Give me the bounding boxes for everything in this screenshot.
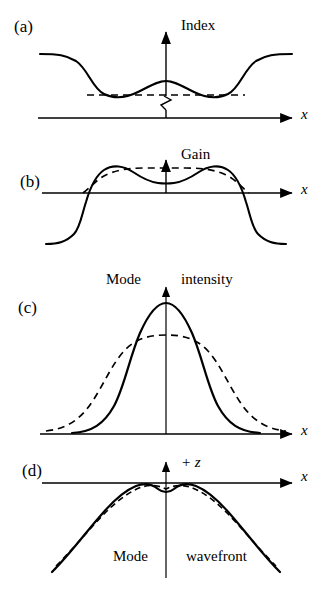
figure-canvas <box>0 0 324 595</box>
panel-c-x-axis-title: x <box>301 423 308 438</box>
panel-a-axis-break-icon <box>161 96 171 110</box>
panel-a-y-axis-title: Index <box>181 18 215 33</box>
panel-a-x-axis-title: x <box>301 107 308 122</box>
panel-c-y-axis-title-left: Mode <box>106 272 141 287</box>
panel-a <box>38 32 292 118</box>
panel-d-x-axis-title: x <box>301 469 308 484</box>
panel-b-y-axis-title: Gain <box>181 147 210 162</box>
panel-label-d: (d) <box>22 462 42 479</box>
panel-d-caption-right: wavefront <box>186 549 247 564</box>
panel-label-a: (a) <box>14 18 33 35</box>
figure-root: (a) (b) (c) (d) Index x Gain x Mode inte… <box>0 0 324 595</box>
panel-d-caption-left: Mode <box>113 549 148 564</box>
panel-b <box>42 160 292 244</box>
panel-b-x-axis-title: x <box>301 182 308 197</box>
panel-c <box>40 287 292 434</box>
panel-c-y-axis-title-right: intensity <box>181 272 233 287</box>
panel-d-y-axis-title: + z <box>181 455 201 470</box>
panel-label-b: (b) <box>20 173 40 190</box>
panel-label-c: (c) <box>18 299 37 316</box>
panel-d <box>42 462 292 578</box>
